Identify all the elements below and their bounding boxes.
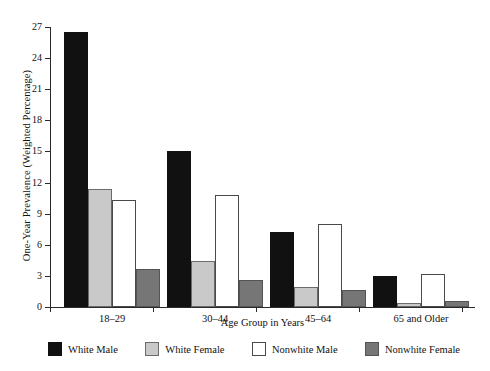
bar-white-male-65-older [373, 276, 397, 307]
bar-chart-figure: One-Year Prevalence (Weighted Percentage… [0, 0, 490, 371]
y-tick-3 [45, 276, 50, 277]
legend-item-white-male: White Male [48, 342, 118, 356]
bar-nonwhite-male-18-29 [112, 200, 136, 307]
y-tick-9 [45, 214, 50, 215]
legend-swatch-nonwhite-male-icon [252, 342, 266, 356]
chart-legend: White Male White Female Nonwhite Male No… [48, 339, 460, 359]
plot-area: 27 24 21 18 15 12 9 6 3 0 18–29 [50, 27, 475, 307]
y-axis-line [50, 27, 51, 307]
legend-swatch-white-male-icon [48, 342, 62, 356]
x-tick-1 [153, 307, 154, 312]
bar-white-male-18-29 [64, 32, 88, 307]
y-tick-label-9: 9 [18, 209, 42, 219]
y-tick-label-24: 24 [18, 53, 42, 63]
y-tick-label-3: 3 [18, 271, 42, 281]
y-tick-label-15: 15 [18, 146, 42, 156]
bar-nonwhite-female-18-29 [136, 269, 160, 307]
legend-label-white-male: White Male [68, 344, 118, 355]
x-tick-4 [462, 307, 463, 312]
y-tick-21 [45, 89, 50, 90]
x-tick-2 [256, 307, 257, 312]
legend-label-white-female: White Female [165, 344, 224, 355]
legend-swatch-white-female-icon [145, 342, 159, 356]
y-tick-6 [45, 245, 50, 246]
y-tick-18 [45, 120, 50, 121]
y-tick-label-6: 6 [18, 240, 42, 250]
legend-label-nonwhite-male: Nonwhite Male [272, 344, 338, 355]
bar-nonwhite-male-45-64 [318, 224, 342, 307]
bar-white-female-65-older [397, 303, 421, 307]
bar-white-female-45-64 [294, 287, 318, 307]
legend-item-white-female: White Female [145, 342, 224, 356]
bar-white-male-45-64 [270, 232, 294, 307]
legend-item-nonwhite-male: Nonwhite Male [252, 342, 338, 356]
y-tick-label-27: 27 [18, 22, 42, 32]
bar-white-female-18-29 [88, 189, 112, 307]
legend-label-nonwhite-female: Nonwhite Female [385, 344, 460, 355]
legend-item-nonwhite-female: Nonwhite Female [365, 342, 460, 356]
y-tick-15 [45, 151, 50, 152]
y-tick-label-18: 18 [18, 115, 42, 125]
x-axis-line [50, 307, 475, 308]
bar-nonwhite-male-30-44 [215, 195, 239, 307]
x-tick-3 [359, 307, 360, 312]
y-tick-27 [45, 27, 50, 28]
y-tick-label-12: 12 [18, 178, 42, 188]
y-tick-12 [45, 183, 50, 184]
x-tick-0 [50, 307, 51, 312]
bar-white-male-30-44 [167, 151, 191, 307]
x-axis-title: Age Group in Years [50, 317, 475, 328]
y-tick-label-21: 21 [18, 84, 42, 94]
bar-nonwhite-female-65-older [445, 301, 469, 307]
bar-nonwhite-female-30-44 [239, 280, 263, 307]
bar-nonwhite-male-65-older [421, 274, 445, 307]
legend-swatch-nonwhite-female-icon [365, 342, 379, 356]
y-tick-24 [45, 58, 50, 59]
bar-nonwhite-female-45-64 [342, 290, 366, 307]
y-tick-label-0: 0 [18, 302, 42, 312]
bar-white-female-30-44 [191, 261, 215, 307]
